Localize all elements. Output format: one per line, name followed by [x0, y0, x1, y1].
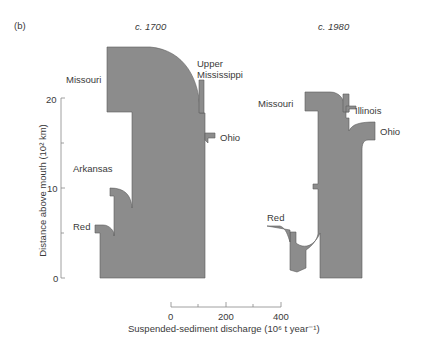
x-tick-400: 400	[273, 311, 289, 322]
sediment-flow-diagram	[0, 0, 424, 346]
label-ohio-1700: Ohio	[220, 132, 240, 143]
label-missouri-1980: Missouri	[258, 98, 293, 109]
label-upper: Upper	[197, 58, 223, 69]
y-axis	[61, 98, 65, 278]
label-missouri-1700: Missouri	[66, 74, 101, 85]
label-arkansas: Arkansas	[73, 163, 113, 174]
x-tick-0: 0	[168, 311, 173, 322]
x-scale-bar	[171, 302, 281, 307]
y-tick-0: 0	[53, 273, 58, 284]
diagram-1700	[95, 47, 215, 278]
y-axis-label: Distance above mouth (10² km)	[37, 111, 48, 271]
title-1700: c. 1700	[135, 21, 166, 32]
label-red-1700: Red	[73, 221, 90, 232]
x-tick-200: 200	[218, 311, 234, 322]
label-illinois: Illinois	[355, 105, 381, 116]
label-ohio-1980: Ohio	[380, 126, 400, 137]
y-tick-20: 20	[46, 94, 57, 105]
x-axis-label: Suspended-sediment discharge (10⁶ t year…	[128, 323, 320, 334]
panel-label: (b)	[14, 20, 26, 31]
y-tick-10: 10	[47, 183, 58, 194]
diagram-1980	[267, 92, 375, 278]
label-red-1980: Red	[267, 212, 284, 223]
title-1980: c. 1980	[318, 21, 349, 32]
label-mississippi: Mississippi	[197, 69, 243, 80]
